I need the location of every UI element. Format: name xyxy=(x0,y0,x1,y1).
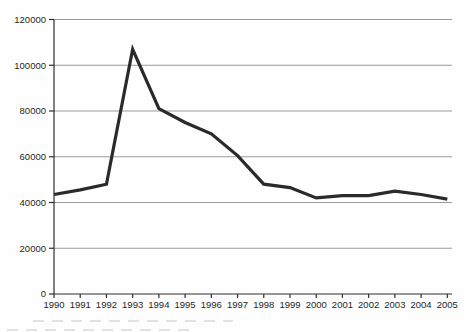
x-axis-tick-label: 1995 xyxy=(175,299,196,310)
x-axis-tick-label: 2002 xyxy=(358,299,379,310)
x-axis-tick-label: 2005 xyxy=(437,299,458,310)
x-axis-tick-label: 1990 xyxy=(43,299,64,310)
y-axis-tick-label: 120000 xyxy=(14,14,46,25)
cropped-caption-artifact xyxy=(7,329,189,331)
gridlines xyxy=(54,20,452,249)
data-line-series-1 xyxy=(54,49,447,199)
axis-ticks xyxy=(49,20,447,299)
scanned-line-chart-figure: 0200004000060000800001000001200001990199… xyxy=(0,0,474,332)
cropped-caption-artifact xyxy=(33,320,233,322)
axis-tick-labels: 0200004000060000800001000001200001990199… xyxy=(14,14,458,310)
x-axis-tick-label: 1992 xyxy=(96,299,117,310)
x-axis-tick-label: 2004 xyxy=(411,299,432,310)
x-axis-tick-label: 1997 xyxy=(227,299,248,310)
y-axis-tick-label: 80000 xyxy=(20,105,46,116)
x-axis-tick-label: 1996 xyxy=(201,299,222,310)
x-axis-tick-label: 2001 xyxy=(332,299,353,310)
data-series xyxy=(54,49,447,199)
y-axis-tick-label: 0 xyxy=(41,288,46,299)
y-axis-tick-label: 40000 xyxy=(20,197,46,208)
x-axis-tick-label: 1991 xyxy=(70,299,91,310)
x-axis-tick-label: 2000 xyxy=(306,299,327,310)
x-axis-tick-label: 1993 xyxy=(122,299,143,310)
y-axis-tick-label: 60000 xyxy=(20,151,46,162)
x-axis-tick-label: 1999 xyxy=(279,299,300,310)
y-axis-tick-label: 20000 xyxy=(20,243,46,254)
line-chart: 0200004000060000800001000001200001990199… xyxy=(0,0,474,332)
y-axis-tick-label: 100000 xyxy=(14,60,46,71)
x-axis-tick-label: 1994 xyxy=(148,299,169,310)
x-axis-tick-label: 2003 xyxy=(384,299,405,310)
x-axis-tick-label: 1998 xyxy=(253,299,274,310)
